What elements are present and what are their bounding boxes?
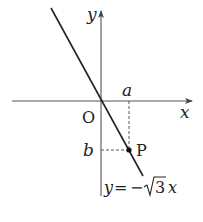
equation-equals: = [114, 178, 127, 197]
coordinate-diagram: y x O a b P y = − 3 x [0, 0, 203, 222]
origin-label: O [82, 108, 95, 127]
x-axis-label: x [180, 102, 190, 122]
point-p-marker [126, 147, 131, 152]
b-label: b [83, 140, 94, 160]
equation-var: x [168, 178, 177, 197]
line-equation: y = − 3 x [103, 177, 177, 197]
equation-minus: − [130, 178, 143, 197]
y-axis-label: y [86, 4, 97, 24]
a-label: a [122, 80, 132, 100]
equation-sqrt-arg: 3 [155, 178, 165, 197]
equation-lhs: y [103, 178, 114, 197]
point-p-label: P [136, 141, 147, 160]
